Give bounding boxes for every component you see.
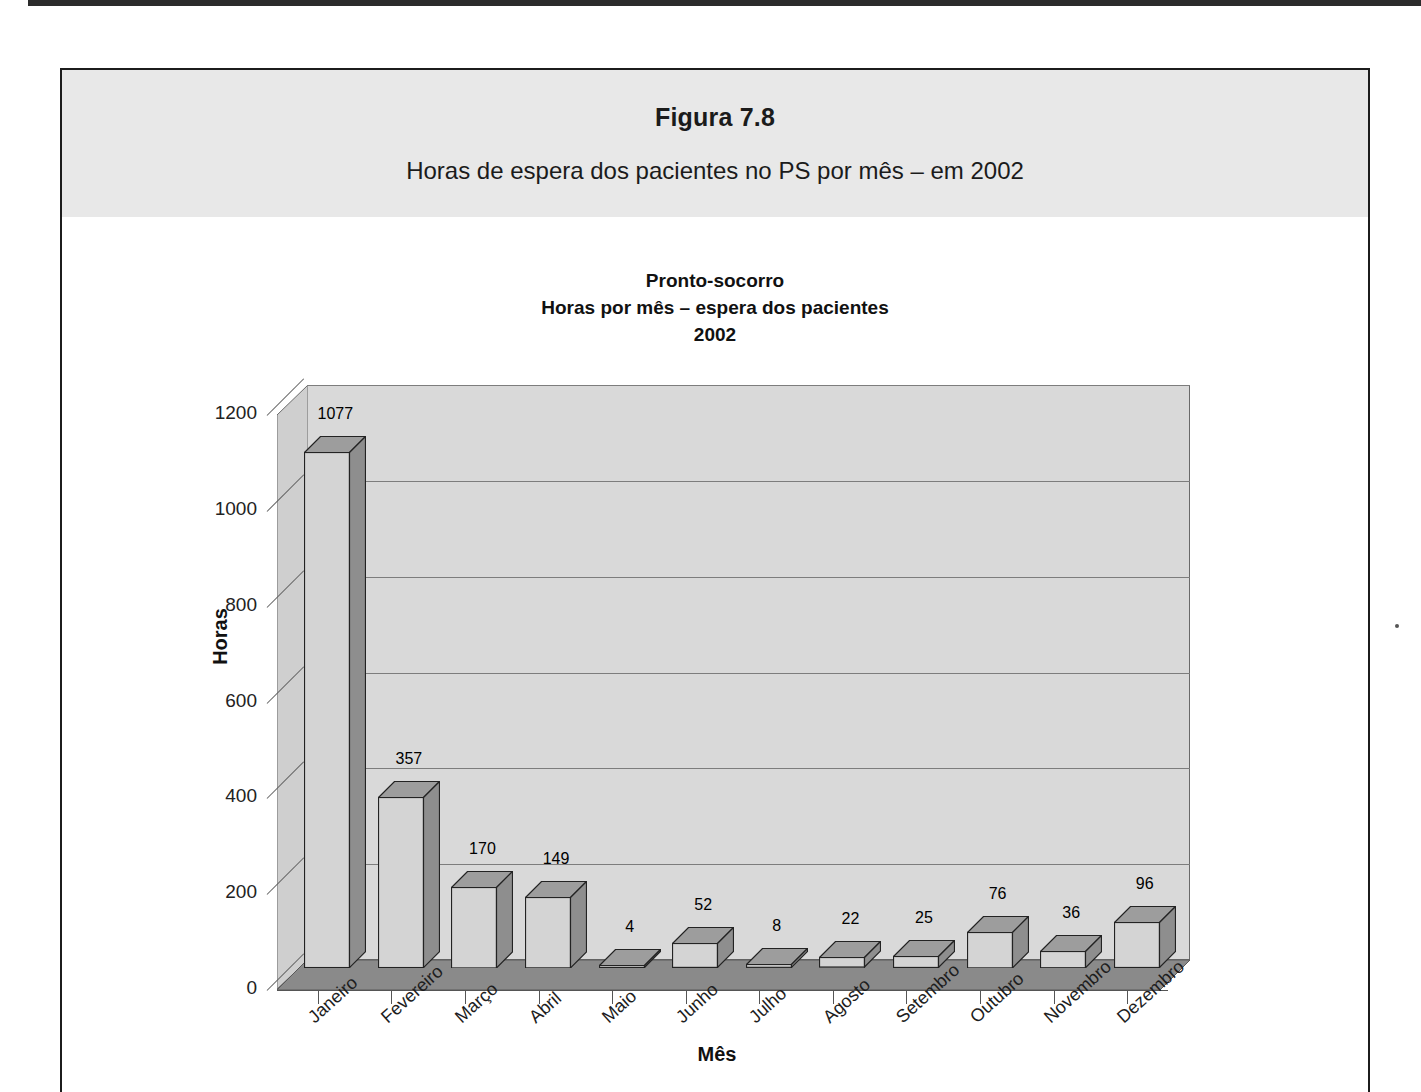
bar-value-label: 76 — [989, 885, 1007, 903]
bar-value-label: 170 — [469, 840, 496, 858]
bar-value-label: 52 — [694, 896, 712, 914]
bar-3d-shape — [378, 781, 440, 968]
bar-column[interactable] — [1114, 906, 1176, 968]
bar-value-label: 8 — [772, 917, 781, 935]
chart-title: Pronto-socorro Horas por mês – espera do… — [62, 267, 1368, 348]
bar-column[interactable] — [378, 781, 440, 968]
chart-title-line-2: Horas por mês – espera dos pacientes — [62, 294, 1368, 321]
bar-column[interactable] — [451, 871, 513, 968]
bar-column[interactable] — [525, 881, 587, 968]
x-axis-category-label: Abril — [525, 988, 566, 1028]
bar-column[interactable] — [304, 436, 366, 968]
bar-3d-shape — [819, 941, 881, 968]
chart-x-axis-title: Mês — [62, 1043, 1372, 1066]
bar-3d-shape — [1114, 906, 1176, 968]
chart-title-line-1: Pronto-socorro — [62, 267, 1368, 294]
bar-value-label: 25 — [915, 909, 933, 927]
bar-value-label: 149 — [543, 850, 570, 868]
chart-plot-area: 020040060080010001200 Horas 107735717014… — [62, 70, 1372, 1092]
figure-title: Figura 7.8 — [62, 103, 1368, 132]
bar-column[interactable] — [819, 941, 881, 968]
bar-column[interactable] — [672, 927, 734, 968]
y-axis-tick-label: 600 — [182, 690, 257, 712]
x-axis-category-label: Maio — [598, 986, 641, 1028]
bar-3d-shape — [746, 948, 808, 968]
gridline — [307, 481, 1190, 482]
gridline — [307, 673, 1190, 674]
y-axis-tick-label: 200 — [182, 881, 257, 903]
figure-header-band — [62, 70, 1368, 217]
figure-box: Figura 7.8 Horas de espera dos pacientes… — [60, 68, 1370, 1092]
bar-3d-shape — [451, 871, 513, 968]
bar-3d-shape — [304, 436, 366, 968]
bar-column[interactable] — [599, 949, 661, 968]
gridline — [307, 385, 1190, 386]
bar-3d-shape — [525, 881, 587, 968]
chart-y-axis-title: Horas — [209, 608, 232, 665]
bar-value-label: 4 — [625, 918, 634, 936]
bar-value-label: 36 — [1062, 904, 1080, 922]
y-axis-tick-label: 1200 — [182, 402, 257, 424]
page-margin-mark — [1395, 624, 1399, 628]
bar-value-label: 1077 — [317, 405, 353, 423]
y-axis-tick-label: 1000 — [182, 498, 257, 520]
bar-3d-shape — [599, 949, 661, 968]
page-root: Figura 7.8 Horas de espera dos pacientes… — [0, 0, 1421, 1092]
bar-value-label: 357 — [396, 750, 423, 768]
figure-subtitle: Horas de espera dos pacientes no PS por … — [62, 157, 1368, 185]
bar-value-label: 96 — [1136, 875, 1154, 893]
bar-value-label: 22 — [841, 910, 859, 928]
gridline — [307, 768, 1190, 769]
bar-column[interactable] — [746, 948, 808, 968]
chart-title-line-3: 2002 — [62, 321, 1368, 348]
bar-3d-shape — [672, 927, 734, 968]
bar-column[interactable] — [967, 916, 1029, 968]
top-rule-gap — [0, 0, 28, 6]
gridline — [307, 577, 1190, 578]
bar-3d-shape — [967, 916, 1029, 968]
y-axis-tick-label: 0 — [182, 977, 257, 999]
y-axis-tick-label: 400 — [182, 785, 257, 807]
top-rule — [0, 0, 1421, 6]
